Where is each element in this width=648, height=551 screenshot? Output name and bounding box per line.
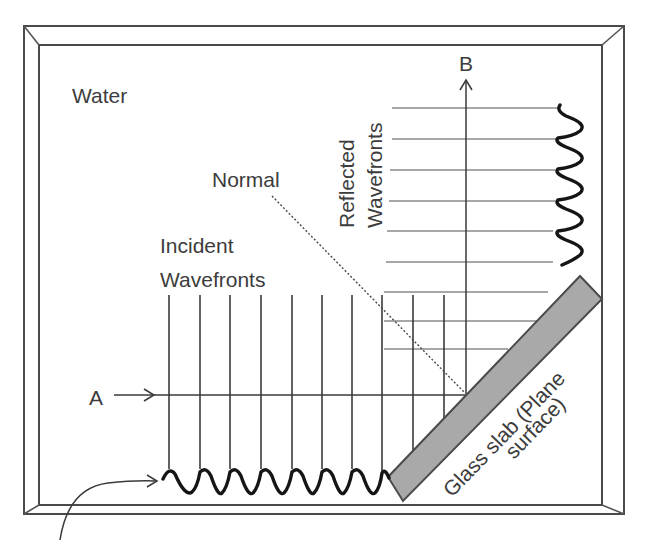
incident-label-line2: Wavefronts bbox=[160, 268, 265, 291]
ray-b-label: B bbox=[459, 52, 473, 75]
normal-label: Normal bbox=[212, 168, 280, 191]
reflected-ripple bbox=[557, 105, 582, 265]
reflection-diagram: Water A B bbox=[0, 0, 648, 551]
pointer-arrow bbox=[60, 475, 157, 540]
incident-label-line1: Incident bbox=[160, 234, 234, 257]
glass-slab bbox=[388, 276, 602, 501]
ray-b bbox=[460, 80, 472, 395]
reflected-wavefronts bbox=[384, 108, 558, 349]
water-label: Water bbox=[72, 84, 127, 107]
reflected-label-line2: Wavefronts bbox=[363, 123, 386, 228]
ray-a-label: A bbox=[89, 386, 103, 409]
incident-ripple bbox=[163, 470, 389, 494]
reflected-label-line1: Reflected bbox=[335, 139, 358, 228]
